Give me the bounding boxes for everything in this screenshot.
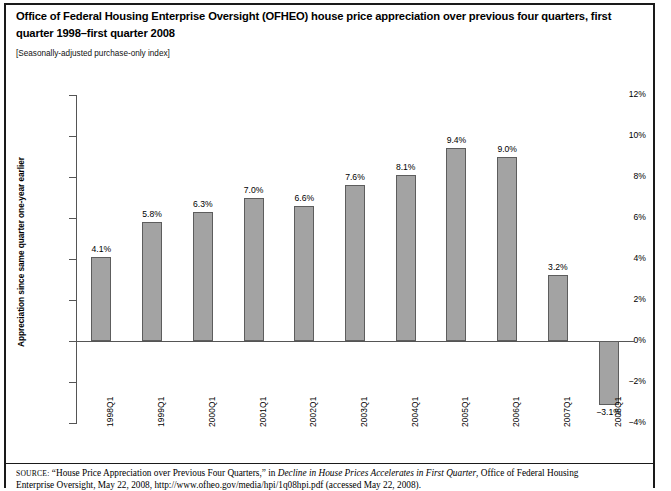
source-note: SOURCE: “House Price Appreciation over P… <box>16 468 648 491</box>
x-tick-label: 2007Q1 <box>562 397 572 427</box>
bar <box>193 212 213 341</box>
bar <box>345 185 365 341</box>
x-tick-label: 2004Q1 <box>410 397 420 427</box>
figure-subtitle: [Seasonally-adjusted purchase-only index… <box>16 48 170 60</box>
y-tick-mark <box>69 218 76 219</box>
y-axis-line <box>76 95 77 424</box>
y-tick-label: 8% <box>598 171 646 181</box>
x-tick-label: 1998Q1 <box>105 397 115 427</box>
y-axis-title-text: Appreciation since same quarter one-year… <box>16 152 26 352</box>
bar <box>497 157 517 342</box>
page-border-top <box>4 3 655 5</box>
bar-value-label: 8.1% <box>376 162 436 172</box>
bar <box>599 341 619 405</box>
figure-title: Office of Federal Housing Enterprise Ove… <box>16 8 640 42</box>
source-text-part2: , Office of Federal Housing <box>476 468 578 478</box>
bar-value-label: 9.0% <box>477 144 537 154</box>
bar <box>446 148 466 341</box>
x-tick-label: 2005Q1 <box>460 397 470 427</box>
bar-value-label: 6.6% <box>274 193 334 203</box>
bar <box>244 198 264 342</box>
bar <box>91 257 111 341</box>
y-tick-label: 12% <box>598 89 646 99</box>
bar-value-label: 3.2% <box>528 262 588 272</box>
bar <box>396 175 416 341</box>
bar <box>548 275 568 341</box>
x-tick-label: 2001Q1 <box>258 397 268 427</box>
x-tick-label: 1999Q1 <box>156 397 166 427</box>
y-tick-mark <box>69 341 76 342</box>
bar-value-label: 6.3% <box>173 199 233 209</box>
bar <box>142 222 162 341</box>
x-tick-label: 2006Q1 <box>511 397 521 427</box>
y-tick-label: 2% <box>598 294 646 304</box>
source-text-line2: Enterprise Oversight, May 22, 2008, http… <box>16 480 648 491</box>
y-tick-mark <box>69 423 76 424</box>
zero-baseline <box>76 341 634 342</box>
source-divider-rule <box>4 463 655 464</box>
page-border-right <box>653 3 655 488</box>
figure-page: Office of Federal Housing Enterprise Ove… <box>0 0 671 491</box>
y-tick-mark <box>69 300 76 301</box>
y-tick-mark <box>69 177 76 178</box>
y-tick-label: 4% <box>598 253 646 263</box>
bar-chart: Appreciation since same quarter one-year… <box>16 74 646 454</box>
y-tick-mark <box>69 95 76 96</box>
bar-value-label: −3.1% <box>579 407 639 417</box>
y-tick-label: 10% <box>598 130 646 140</box>
bar-value-label: 7.6% <box>325 172 385 182</box>
bar <box>294 206 314 341</box>
y-tick-mark <box>69 259 76 260</box>
source-text-part1: “House Price Appreciation over Previous … <box>49 468 277 478</box>
bar-value-label: 5.8% <box>122 209 182 219</box>
x-tick-label: 2000Q1 <box>207 397 217 427</box>
y-tick-mark <box>69 382 76 383</box>
x-tick-label: 2008Q1 <box>613 397 623 427</box>
y-tick-mark <box>69 136 76 137</box>
x-tick-label: 2003Q1 <box>359 397 369 427</box>
x-tick-label: 2002Q1 <box>308 397 318 427</box>
page-border-left <box>4 3 6 488</box>
bar-value-label: 4.1% <box>71 244 131 254</box>
source-publication-title: Decline in House Prices Accelerates in F… <box>278 468 476 478</box>
y-tick-label: 6% <box>598 212 646 222</box>
source-label: SOURCE: <box>16 469 49 478</box>
y-axis-title: Appreciation since same quarter one-year… <box>16 0 26 152</box>
